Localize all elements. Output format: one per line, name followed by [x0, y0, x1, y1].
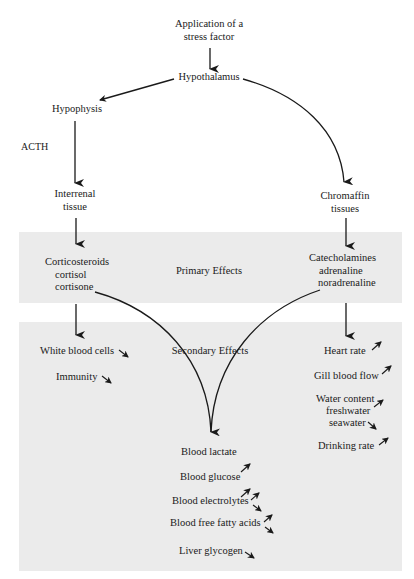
curve-noradrenaline-center: [211, 290, 320, 432]
effect-blood-lactate: Blood lactate: [181, 446, 237, 459]
trend-down-icon: [102, 376, 111, 383]
effect-immunity: Immunity: [56, 371, 97, 384]
effect-liver-glycogen: Liver glycogen: [179, 545, 243, 558]
effect-water-content: Water content: [316, 393, 374, 406]
chromaffin-node: Chromaffin tissues: [321, 190, 370, 215]
curve-cortisone-center: [95, 292, 211, 432]
arrow-hypothalamus-chromaffin: [243, 79, 344, 182]
trend-down-icon: [253, 505, 261, 511]
hypophysis-node: Hypophysis: [52, 103, 102, 116]
trend-up-icon: [379, 438, 388, 445]
effect-blood-free-fatty-acids: Blood free fatty acids: [170, 517, 261, 530]
trend-up-icon: [374, 400, 383, 407]
arrow-hypothalamus-hypophysis: [100, 79, 174, 100]
trend-up-icon: [264, 515, 272, 522]
effect-seawater: seawater: [329, 417, 366, 430]
trend-up-icon: [241, 464, 250, 472]
effect-freshwater: freshwater: [326, 405, 370, 418]
effect-white-blood-cells: White blood cells: [40, 345, 114, 358]
effect-drinking-rate: Drinking rate: [318, 440, 374, 453]
trend-down-icon: [265, 527, 273, 533]
trend-down-icon: [119, 350, 128, 357]
secondary-effects-label: Secondary Effects: [172, 345, 248, 358]
trend-up-icon: [372, 342, 381, 350]
trend-down-icon: [245, 552, 254, 558]
effect-blood-electrolytes: Blood electrolytes: [172, 495, 249, 508]
acth-label: ACTH: [21, 141, 48, 154]
hypothalamus-node: Hypothalamus: [178, 71, 239, 84]
effect-heart-rate: Heart rate: [324, 345, 366, 358]
effect-gill-blood-flow: Gill blood flow: [314, 370, 379, 383]
catecholamines-node: Catecholamines adrenaline noradrenaline: [309, 252, 376, 290]
primary-effects-label: Primary Effects: [176, 265, 242, 278]
trend-up-icon: [251, 493, 259, 500]
effect-blood-glucose: Blood glucose: [180, 471, 240, 484]
interrenal-node: Interrenal tissue: [55, 188, 96, 213]
corticosteroids-node: Corticosteroids cortisol cortisone: [45, 256, 109, 294]
trend-down-icon: [368, 422, 376, 429]
trend-up-icon: [382, 366, 391, 374]
stimulus-label: Application of a stress factor: [175, 18, 243, 43]
